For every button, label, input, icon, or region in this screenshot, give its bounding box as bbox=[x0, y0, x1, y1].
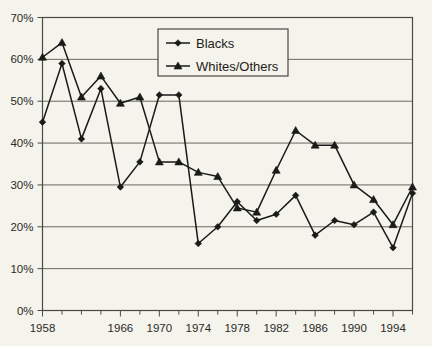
y-axis-tick-label: 20% bbox=[10, 221, 33, 233]
y-axis-tick-label: 30% bbox=[10, 179, 33, 191]
y-axis-tick-label: 0% bbox=[17, 305, 34, 317]
legend-label: Blacks bbox=[196, 36, 235, 51]
x-axis-tick-label: 1970 bbox=[147, 322, 173, 334]
y-axis-tick-label: 70% bbox=[10, 12, 33, 24]
y-axis-tick-label: 60% bbox=[10, 53, 33, 65]
x-axis-tick-label: 1990 bbox=[341, 322, 367, 334]
x-axis-tick-label: 1982 bbox=[263, 322, 289, 334]
chart-legend: BlacksWhites/Others bbox=[158, 29, 288, 76]
chart-container: 0%10%20%30%40%50%60%70% 1958196619701974… bbox=[0, 0, 432, 346]
x-axis-tick-label: 1994 bbox=[380, 322, 406, 334]
y-axis-tick-label: 50% bbox=[10, 95, 33, 107]
line-chart: 0%10%20%30%40%50%60%70% 1958196619701974… bbox=[0, 0, 432, 346]
x-axis-tick-label: 1978 bbox=[224, 322, 250, 334]
y-axis-tick-label: 10% bbox=[10, 263, 33, 275]
legend-label: Whites/Others bbox=[196, 59, 279, 74]
y-axis-tick-label: 40% bbox=[10, 137, 33, 149]
x-axis-tick-label: 1974 bbox=[185, 322, 211, 334]
x-axis-tick-label: 1958 bbox=[30, 322, 56, 334]
x-axis-tick-label: 1986 bbox=[302, 322, 328, 334]
x-axis-tick-label: 1966 bbox=[108, 322, 134, 334]
